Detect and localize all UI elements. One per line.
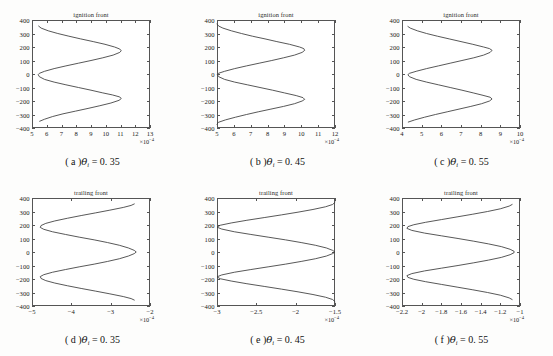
- y-tick-label: −300: [16, 111, 30, 118]
- y-tick-label: 100: [20, 57, 30, 64]
- x-tick-label: 6: [440, 130, 443, 137]
- x-tick-label: 8: [75, 130, 78, 137]
- subplot-title: ignition front: [217, 11, 335, 18]
- y-tick-label: −100: [386, 262, 400, 269]
- y-tick-label: −400: [201, 303, 215, 310]
- y-tick-label: 400: [205, 17, 215, 24]
- y-tick-label: −100: [16, 84, 30, 91]
- y-tick-label: 300: [390, 208, 400, 215]
- y-tick-label: 200: [20, 222, 30, 229]
- front-curve: [402, 20, 520, 128]
- x-axis-exponent: ×10−4: [324, 137, 339, 145]
- y-tick-label: 400: [20, 17, 30, 24]
- plot-area-a: ignition front4003002001000−100−200−300−…: [32, 20, 150, 128]
- y-tick-label: −100: [386, 84, 400, 91]
- y-tick-label: 300: [20, 30, 30, 37]
- y-tick-label: 200: [205, 222, 215, 229]
- x-tick-label: 5: [215, 130, 218, 137]
- x-tick-mark: [335, 198, 336, 201]
- x-axis-exponent: ×10−4: [509, 137, 524, 145]
- x-tick-label: −2.2: [396, 308, 408, 315]
- front-curve: [402, 198, 520, 306]
- y-tick-label: 100: [20, 235, 30, 242]
- x-tick-label: 7: [459, 130, 462, 137]
- figure-grid: ignition front4003002001000−100−200−300−…: [0, 0, 553, 356]
- subplot-caption: ( a )θi = 0. 35: [0, 156, 185, 168]
- y-tick-mark: [147, 306, 150, 307]
- x-tick-mark: [335, 125, 336, 128]
- x-tick-label: −1.4: [475, 308, 487, 315]
- y-tick-label: 200: [20, 44, 30, 51]
- x-tick-label: −2: [292, 308, 299, 315]
- subplot-title: trailing front: [217, 189, 335, 196]
- y-tick-label: 200: [390, 222, 400, 229]
- y-tick-mark: [32, 128, 35, 129]
- x-tick-label: 10: [298, 130, 305, 137]
- y-tick-label: −300: [201, 111, 215, 118]
- x-tick-mark: [150, 125, 151, 128]
- x-tick-mark: [520, 20, 521, 23]
- y-tick-label: 400: [20, 195, 30, 202]
- y-tick-label: 400: [390, 195, 400, 202]
- x-tick-label: −5: [28, 308, 35, 315]
- x-tick-label: 6: [232, 130, 235, 137]
- y-tick-mark: [517, 306, 520, 307]
- subplot-title: trailing front: [32, 189, 150, 196]
- y-tick-label: 100: [390, 235, 400, 242]
- subplot-e: trailing front4003002001000−100−200−300−…: [185, 178, 370, 356]
- x-tick-label: −1.5: [329, 308, 341, 315]
- x-axis-exponent: ×10−4: [139, 315, 154, 323]
- y-tick-label: −100: [201, 262, 215, 269]
- front-curve: [217, 20, 335, 128]
- y-tick-label: −200: [201, 98, 215, 105]
- y-tick-label: −300: [201, 289, 215, 296]
- y-tick-mark: [217, 306, 220, 307]
- x-tick-label: −3: [107, 308, 114, 315]
- plot-area-b: ignition front4003002001000−100−200−300−…: [217, 20, 335, 128]
- y-tick-mark: [217, 128, 220, 129]
- y-tick-mark: [32, 306, 35, 307]
- y-tick-label: −400: [16, 125, 30, 132]
- x-tick-mark: [520, 303, 521, 306]
- x-tick-label: −2.5: [250, 308, 262, 315]
- y-tick-label: 400: [205, 195, 215, 202]
- plot-area-c: ignition front4003002001000−100−200−300−…: [402, 20, 520, 128]
- x-tick-label: 9: [499, 130, 502, 137]
- y-tick-label: −400: [16, 303, 30, 310]
- x-tick-label: 11: [117, 130, 123, 137]
- subplot-caption: ( e )θi = 0. 45: [185, 334, 370, 346]
- y-tick-label: 100: [205, 235, 215, 242]
- x-tick-label: 7: [249, 130, 252, 137]
- x-tick-label: −3: [213, 308, 220, 315]
- x-tick-label: 6: [45, 130, 48, 137]
- y-tick-label: 100: [205, 57, 215, 64]
- x-tick-label: 12: [132, 130, 139, 137]
- x-tick-label: 5: [420, 130, 423, 137]
- x-tick-label: 9: [89, 130, 92, 137]
- x-tick-label: 8: [479, 130, 482, 137]
- y-tick-label: −400: [201, 125, 215, 132]
- x-axis-exponent: ×10−4: [324, 315, 339, 323]
- y-tick-label: −100: [16, 262, 30, 269]
- x-tick-label: −1.8: [435, 308, 447, 315]
- y-tick-mark: [402, 128, 405, 129]
- y-tick-label: 300: [205, 208, 215, 215]
- y-tick-mark: [517, 128, 520, 129]
- y-tick-mark: [332, 128, 335, 129]
- y-tick-label: 300: [20, 208, 30, 215]
- subplot-c: ignition front4003002001000−100−200−300−…: [370, 0, 553, 178]
- x-tick-label: 13: [147, 130, 154, 137]
- x-tick-mark: [520, 125, 521, 128]
- x-tick-label: 7: [60, 130, 63, 137]
- subplot-caption: ( b )θi = 0. 45: [185, 156, 370, 168]
- y-tick-label: −400: [386, 125, 400, 132]
- x-tick-label: 10: [102, 130, 109, 137]
- y-tick-label: −100: [201, 84, 215, 91]
- y-tick-label: 0: [396, 71, 399, 78]
- y-tick-label: 100: [390, 57, 400, 64]
- y-tick-label: −300: [16, 289, 30, 296]
- subplot-d: trailing front4003002001000−100−200−300−…: [0, 178, 185, 356]
- y-tick-label: 200: [205, 44, 215, 51]
- y-tick-mark: [402, 306, 405, 307]
- x-axis-exponent: ×10−4: [139, 137, 154, 145]
